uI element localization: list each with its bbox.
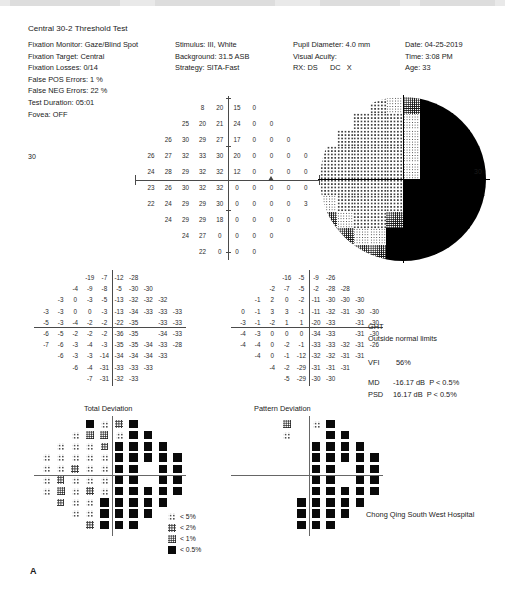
grid-value: 0	[247, 248, 262, 255]
grid-value: -31	[338, 308, 353, 315]
deviation-symbol	[100, 521, 109, 530]
deviation-symbol	[115, 442, 124, 451]
deviation-symbol	[356, 476, 365, 485]
deviation-symbol	[129, 453, 138, 462]
deviation-symbol	[326, 465, 335, 474]
grid-value: -33	[141, 364, 156, 371]
greyscale-cell	[320, 113, 337, 130]
grid-value: -2	[294, 296, 309, 303]
greyscale-cell	[337, 130, 354, 147]
deviation-symbol	[341, 487, 350, 496]
grid-value: 32	[195, 168, 210, 175]
grid-value: -32	[126, 296, 141, 303]
header-field-label: Pupil Diameter:	[293, 40, 344, 49]
greyscale-cell	[403, 113, 420, 130]
grid-value: -34	[309, 330, 324, 337]
deviation-symbol	[57, 499, 65, 507]
header-field-value: SITA-Fast	[205, 63, 240, 72]
deviation-symbol	[129, 442, 138, 451]
deviation-symbol	[101, 477, 108, 484]
grid-value: -33	[155, 319, 170, 326]
deviation-symbol	[253, 464, 262, 473]
deviation-symbol	[159, 498, 168, 507]
greyscale-cell	[403, 195, 420, 212]
ght-label: GHT	[368, 322, 384, 331]
grid-value: 0	[281, 168, 296, 175]
grid-value: 0	[298, 168, 313, 175]
grid-value: 0	[264, 184, 279, 191]
greyscale-cell	[436, 212, 453, 229]
greyscale-cell	[453, 228, 470, 245]
deviation-symbol	[72, 454, 79, 461]
greyscale-cell	[453, 146, 470, 163]
grid-value: 27	[161, 152, 176, 159]
deviation-symbol	[159, 442, 168, 451]
grid-value: -2	[82, 330, 97, 337]
deviation-symbol	[268, 487, 277, 496]
deviation-symbol	[297, 420, 306, 429]
grid-value: 3	[279, 308, 294, 315]
grid-value: 3	[265, 308, 280, 315]
deviation-symbol	[326, 453, 335, 462]
grid-value: -6	[53, 341, 68, 348]
grid-value: -7	[82, 375, 97, 382]
greyscale-map: 30	[318, 95, 490, 263]
deviation-symbol	[297, 498, 306, 507]
grid-value: 0	[281, 200, 296, 207]
grid-value: -34	[126, 308, 141, 315]
window-titlebar-strip	[0, 0, 505, 6]
deviation-symbol	[253, 476, 262, 485]
grid-value: -31	[352, 341, 367, 348]
grid-value: 0	[247, 120, 262, 127]
grid-value: 0	[264, 232, 279, 239]
grid-value: -19	[82, 274, 97, 281]
grid-value: 0	[68, 308, 83, 315]
greyscale-cell	[469, 228, 486, 245]
greyscale-cell	[453, 130, 470, 147]
grid-value: 12	[230, 168, 245, 175]
header-field-value: III, White	[205, 40, 236, 49]
deviation-symbol	[144, 476, 153, 485]
grid-value: -34	[141, 341, 156, 348]
grid-value: 0	[264, 136, 279, 143]
grid-value: -2	[68, 330, 83, 337]
grid-value: -6	[68, 364, 83, 371]
threshold-axis-label-30: 30	[28, 152, 36, 161]
axis-tick	[226, 98, 231, 99]
grid-value: -1	[279, 352, 294, 359]
deviation-symbol	[173, 487, 182, 496]
deviation-symbol	[326, 420, 335, 429]
grid-value: -33	[170, 330, 185, 337]
grid-value: -3	[53, 296, 68, 303]
deviation-symbol	[312, 453, 321, 462]
deviation-symbol	[268, 464, 277, 473]
deviation-symbol	[86, 487, 94, 495]
deviation-symbol	[268, 453, 277, 462]
grid-value: 2	[265, 296, 280, 303]
grid-value: 0	[68, 296, 83, 303]
page-title: Central 30-2 Threshold Test	[28, 24, 128, 33]
greyscale-cell	[453, 245, 470, 261]
grid-value: -30	[352, 296, 367, 303]
greyscale-cell	[353, 97, 370, 114]
greyscale-cell	[420, 245, 437, 261]
greyscale-cell	[420, 113, 437, 130]
figure-mark: A	[30, 566, 37, 576]
total-deviation-label: Total Deviation	[84, 404, 132, 413]
deviation-symbol	[115, 521, 124, 530]
deviation-symbol	[253, 453, 262, 462]
grid-value: -5	[97, 296, 112, 303]
grid-value: 29	[178, 168, 193, 175]
header-field: Strategy: SITA-Fast	[175, 63, 249, 75]
header-field: Background: 31.5 ASB	[175, 52, 249, 64]
grid-value: -35	[126, 319, 141, 326]
header-field: Age: 33	[405, 63, 463, 75]
greyscale-cell	[436, 146, 453, 163]
grid-value: -28	[170, 341, 185, 348]
legend-symbol	[168, 524, 176, 532]
header-field-label: False POS Errors:	[28, 75, 88, 84]
deviation-symbol	[268, 498, 277, 507]
grid-value: -3	[53, 319, 68, 326]
greyscale-cell	[370, 97, 387, 114]
grid-value: 0	[281, 136, 296, 143]
